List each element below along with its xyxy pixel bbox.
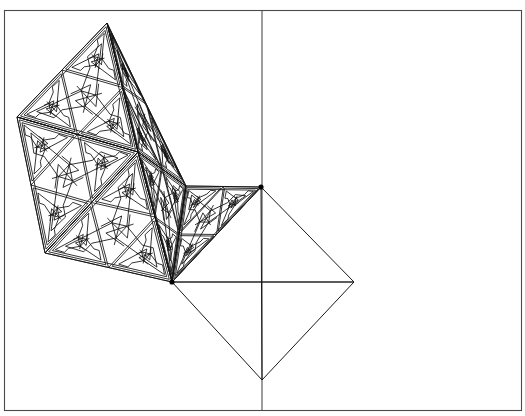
- vertex-dot-1: [258, 184, 263, 189]
- geometry-canvas: [0, 0, 525, 416]
- drawing-app: [0, 0, 525, 416]
- vertex-dot-2: [169, 279, 174, 284]
